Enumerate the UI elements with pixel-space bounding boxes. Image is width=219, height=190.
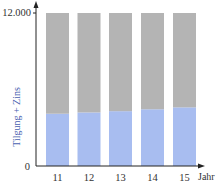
bar-segment-zins-11 (46, 13, 69, 114)
bar-segment-tilgung-12 (78, 112, 101, 166)
bar-segment-zins-13 (109, 13, 132, 111)
bar-segment-zins-15 (173, 13, 196, 107)
x-axis-arrow-icon (198, 164, 205, 169)
x-tick-label: 11 (52, 172, 62, 183)
x-tick-label: 14 (147, 172, 158, 183)
bar-segment-tilgung-11 (46, 114, 69, 166)
bar-segment-tilgung-13 (109, 111, 132, 166)
y-tick-label-max: 12.000 (2, 7, 31, 18)
stacked-bar-chart: 12.000 0 Tilgung + Zins Jahr 1112131415 (0, 0, 219, 190)
x-tick-labels: 1112131415 (52, 172, 189, 183)
bars-group (46, 13, 196, 166)
x-tick-label: 15 (179, 172, 190, 183)
x-tick-label: 13 (115, 172, 126, 183)
x-axis-title: Jahr (198, 171, 215, 182)
bar-segment-zins-14 (141, 13, 164, 109)
y-axis-title: Tilgung + Zins (11, 87, 22, 147)
bar-segment-tilgung-15 (173, 107, 196, 166)
bar-segment-zins-12 (78, 13, 101, 112)
x-tick-label: 12 (84, 172, 95, 183)
bar-segment-tilgung-14 (141, 109, 164, 166)
y-tick-label-zero: 0 (25, 161, 30, 172)
y-axis-arrow-icon (34, 1, 39, 8)
